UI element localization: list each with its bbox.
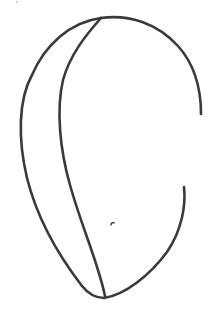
line-drawing xyxy=(0,0,211,328)
small-tick-mark xyxy=(111,223,114,225)
inner-curve xyxy=(59,18,105,296)
bottom-right-arc xyxy=(104,187,184,298)
top-right-arc xyxy=(101,17,201,114)
speck xyxy=(16,1,18,3)
sketch-canvas xyxy=(0,0,211,328)
